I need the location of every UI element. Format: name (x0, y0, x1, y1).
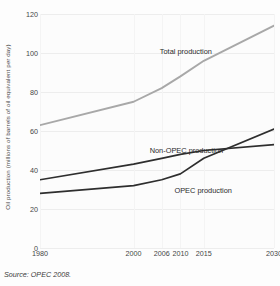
y-tick-label: 120 (16, 10, 38, 19)
grid-line-vertical (274, 14, 275, 248)
series-label-total-production: Total production (160, 47, 212, 56)
x-tick-label: 2006 (154, 249, 170, 258)
x-axis-tick-labels: 198020002006201020152030 (40, 249, 274, 261)
y-axis-tick-labels: 020406080100120 (14, 0, 38, 286)
y-tick-label: 40 (16, 166, 38, 175)
y-tick-label: 100 (16, 49, 38, 58)
series-label-non-opec-production: Non-OPEC production (150, 146, 224, 155)
plot-area (40, 14, 274, 248)
x-tick-label: 1980 (32, 249, 48, 258)
x-tick-label: 2030 (266, 249, 280, 258)
series-line (40, 26, 274, 125)
series-line (40, 129, 274, 193)
source-note: Source: OPEC 2008. (4, 270, 71, 279)
x-tick-label: 2000 (126, 249, 142, 258)
y-axis-title: Oil production (millions of barrels of o… (2, 2, 14, 252)
y-tick-label: 20 (16, 205, 38, 214)
series-label-opec-production: OPEC production (174, 186, 232, 195)
x-tick-label: 2010 (172, 249, 188, 258)
series-lines (40, 14, 274, 248)
x-tick-label: 2015 (196, 249, 212, 258)
chart-figure: Oil production (millions of barrels of o… (0, 0, 280, 286)
y-tick-label: 60 (16, 127, 38, 136)
y-tick-label: 80 (16, 88, 38, 97)
